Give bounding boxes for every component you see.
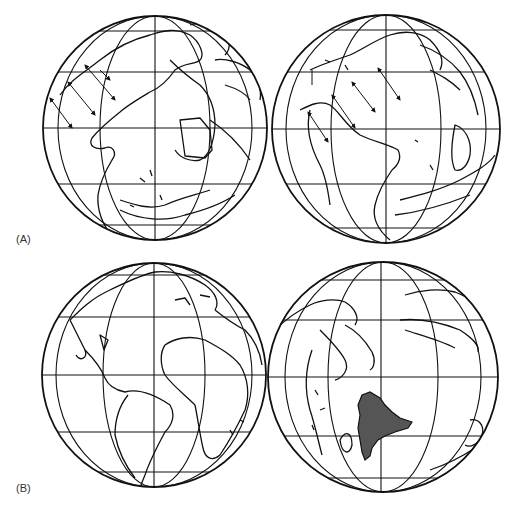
- globe-a-left: [40, 10, 270, 245]
- globe-a-right: [270, 10, 505, 248]
- globe-b-left: [40, 258, 270, 492]
- graticule: [40, 10, 270, 245]
- panel-label-b: (B): [16, 482, 31, 494]
- panel-label-a: (A): [16, 233, 31, 245]
- figure-canvas: [0, 0, 511, 508]
- globe-b-right: [265, 258, 505, 495]
